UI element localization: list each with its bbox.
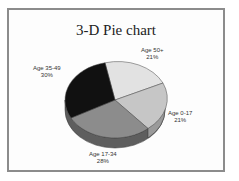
label-age-50-plus: Age 50+ 21% — [141, 47, 164, 61]
label-age-17-34: Age 17-34 28% — [89, 151, 117, 165]
label-pct: 21% — [141, 54, 164, 61]
label-name: Age 50+ — [141, 47, 164, 54]
label-pct: 28% — [89, 158, 117, 165]
label-age-0-17: Age 0-17 21% — [168, 110, 192, 124]
label-age-35-49: Age 35-49 30% — [33, 65, 61, 79]
label-name: Age 17-34 — [89, 151, 117, 158]
label-name: Age 0-17 — [168, 110, 192, 117]
label-pct: 21% — [168, 117, 192, 124]
label-pct: 30% — [33, 72, 61, 79]
label-name: Age 35-49 — [33, 65, 61, 72]
pie-chart — [0, 0, 239, 181]
